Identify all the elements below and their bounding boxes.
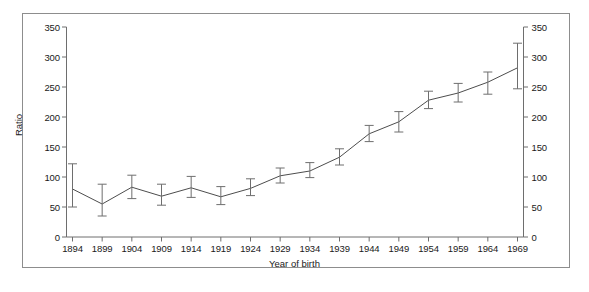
x-axis-tick-label: 1899	[92, 243, 113, 254]
data-series-group	[68, 43, 522, 216]
y-axis-left-tick-label: 300	[22, 52, 60, 63]
data-line	[73, 68, 518, 204]
x-axis-tick-label: 1959	[448, 243, 469, 254]
x-axis-tick-label: 1914	[181, 243, 202, 254]
x-axis-label: Year of birth	[0, 258, 589, 269]
error-bar	[513, 43, 522, 89]
y-axis-right-tick-label: 0	[532, 232, 572, 243]
x-axis-tick-label: 1894	[62, 243, 83, 254]
y-axis-left-tick-label: 50	[22, 202, 60, 213]
y-axis-right-tick-label: 100	[532, 172, 572, 183]
y-axis-right-tick-label: 250	[532, 82, 572, 93]
x-axis-tick-label: 1909	[151, 243, 172, 254]
error-bar	[187, 176, 196, 197]
y-axis-right-tick-label: 350	[532, 22, 572, 33]
error-bar	[365, 125, 374, 141]
y-axis-right-tick-label: 200	[532, 112, 572, 123]
y-axis-label: Ratio	[13, 114, 24, 136]
y-axis-left-tick-label: 150	[22, 142, 60, 153]
error-bar	[98, 184, 107, 216]
axes-group	[62, 27, 528, 242]
error-bar	[454, 83, 463, 102]
y-axis-left-tick-label: 200	[22, 112, 60, 123]
x-axis-tick-label: 1924	[240, 243, 261, 254]
x-axis-tick-label: 1934	[299, 243, 320, 254]
error-bar	[305, 163, 314, 178]
x-axis-tick-label: 1939	[329, 243, 350, 254]
x-axis-tick-label: 1929	[270, 243, 291, 254]
x-axis-tick-label: 1964	[477, 243, 498, 254]
error-bar	[157, 184, 166, 205]
y-axis-left-tick-label: 250	[22, 82, 60, 93]
y-axis-right-tick-label: 50	[532, 202, 572, 213]
x-axis-tick-label: 1954	[418, 243, 439, 254]
y-axis-right-tick-label: 300	[532, 52, 572, 63]
x-axis-tick-label: 1949	[388, 243, 409, 254]
y-axis-left-tick-label: 0	[22, 232, 60, 243]
x-axis-tick-label: 1904	[121, 243, 142, 254]
x-axis-tick-label: 1944	[359, 243, 380, 254]
x-axis-tick-label: 1919	[210, 243, 231, 254]
y-axis-left-tick-label: 100	[22, 172, 60, 183]
chart-plot-area	[0, 0, 589, 292]
error-bar	[394, 112, 403, 132]
chart-figure: 050100150200250300350 050100150200250300…	[0, 0, 589, 292]
error-bar	[335, 149, 344, 165]
y-axis-right-tick-label: 150	[532, 142, 572, 153]
y-axis-left-tick-label: 350	[22, 22, 60, 33]
error-bar	[127, 175, 136, 198]
error-bar	[68, 164, 77, 207]
x-axis-tick-label: 1969	[507, 243, 528, 254]
